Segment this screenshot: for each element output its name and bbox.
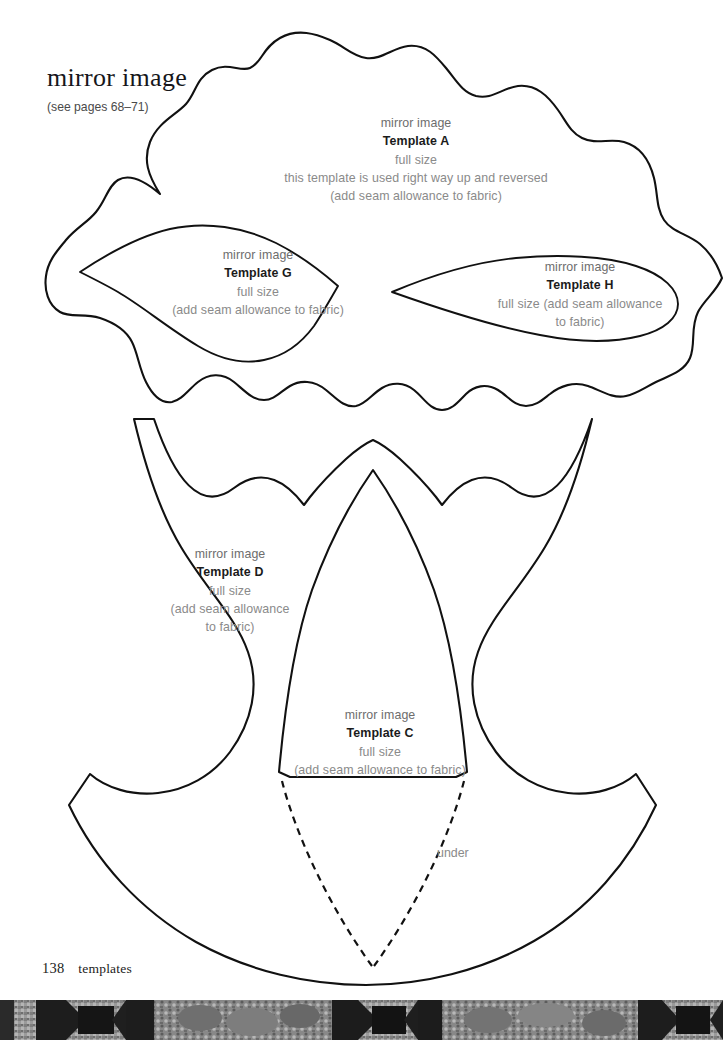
template-h-size-note-line2: to fabric) [470,313,690,331]
template-c-dashed-right [374,781,464,966]
template-h-size-note-line1: full size (add seam allowance [470,295,690,313]
template-c-size: full size [265,743,495,761]
section-label: templates [78,961,132,976]
template-c-name: Template C [265,724,495,742]
template-c-dashed-left [282,781,372,966]
template-page: mirror image (see pages 68–71) mirror im… [0,0,723,1040]
page-title: mirror image [47,63,187,93]
template-g-name: Template G [128,264,388,282]
template-a-usage-note: this template is used right way up and r… [236,169,596,187]
page-footer: 138templates [42,960,132,977]
template-g-seam-note: (add seam allowance to fabric) [128,301,388,319]
template-h-mirror-label: mirror image [470,258,690,276]
template-a-seam-note: (add seam allowance to fabric) [236,187,596,205]
template-d-seam-note-line2: to fabric) [130,618,330,636]
template-c-mirror-label: mirror image [265,706,495,724]
fabric-border-strip [0,1000,723,1040]
page-reference-note: (see pages 68–71) [47,100,149,114]
template-a-mirror-label: mirror image [236,114,596,132]
template-d-caption: mirror image Template D full size (add s… [130,545,330,637]
template-g-mirror-label: mirror image [128,246,388,264]
template-h-caption: mirror image Template H full size (add s… [470,258,690,331]
template-c-seam-note: (add seam allowance to fabric) [265,761,495,779]
template-a-size: full size [236,151,596,169]
fabric-border-pattern [0,1000,723,1040]
under-label: under [437,846,469,860]
template-g-size: full size [128,283,388,301]
template-d-outline [69,419,656,985]
template-a-name: Template A [236,132,596,150]
template-h-name: Template H [470,276,690,294]
template-d-name: Template D [130,563,330,581]
template-d-mirror-label: mirror image [130,545,330,563]
page-number: 138 [42,960,64,976]
template-c-caption: mirror image Template C full size (add s… [265,706,495,779]
template-g-caption: mirror image Template G full size (add s… [128,246,388,319]
template-d-seam-note-line1: (add seam allowance [130,600,330,618]
template-d-size: full size [130,582,330,600]
template-a-caption: mirror image Template A full size this t… [236,114,596,206]
